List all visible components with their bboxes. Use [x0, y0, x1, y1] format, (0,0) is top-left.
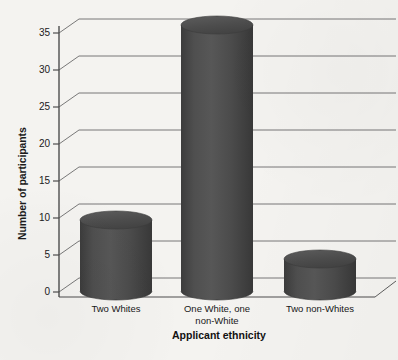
bar-one-white-one-non-white: [181, 16, 253, 300]
x-category-label-0: Two Whites: [61, 303, 171, 315]
y-tick-label-5: 5: [18, 249, 50, 260]
y-tick-label-10: 10: [18, 212, 50, 223]
bar-two-non-whites: [284, 250, 356, 300]
y-tick-label-35: 35: [18, 27, 50, 38]
x-category-label-2-line-0: Two non-Whites: [265, 303, 375, 315]
x-category-label-1-line-0: One White, one: [162, 303, 272, 315]
x-category-label-0-line-0: Two Whites: [61, 303, 171, 315]
bar-chart: Number of participants 35 30 25 20 15 10…: [0, 0, 398, 360]
y-tick-label-25: 25: [18, 101, 50, 112]
y-tick-label-30: 30: [18, 64, 50, 75]
y-tick-label-0: 0: [18, 286, 50, 297]
x-category-label-1-line-1: non-White: [162, 315, 272, 327]
x-category-label-1: One White, one non-White: [162, 303, 272, 327]
x-category-label-2: Two non-Whites: [265, 303, 375, 315]
y-axis-ticks: [53, 33, 59, 292]
x-axis-title: Applicant ethnicity: [129, 329, 309, 341]
y-tick-label-15: 15: [18, 175, 50, 186]
y-tick-label-20: 20: [18, 138, 50, 149]
bar-two-whites: [80, 211, 152, 300]
